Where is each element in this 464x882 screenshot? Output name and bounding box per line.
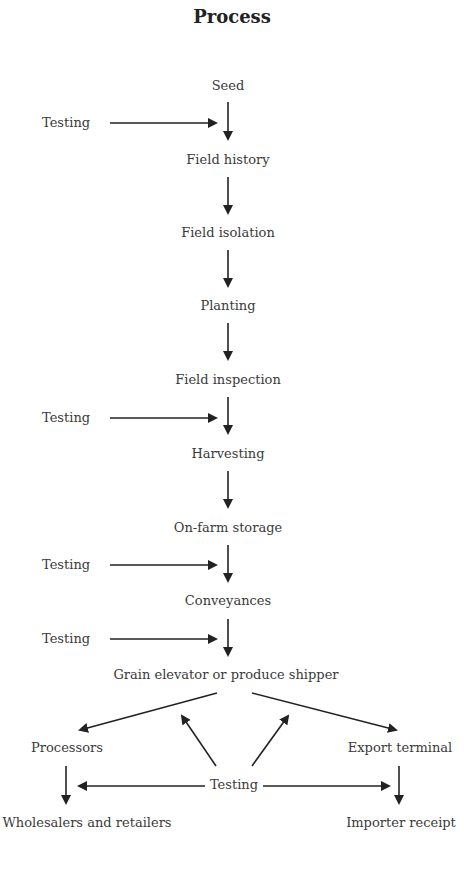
flow-arrows bbox=[0, 0, 464, 882]
